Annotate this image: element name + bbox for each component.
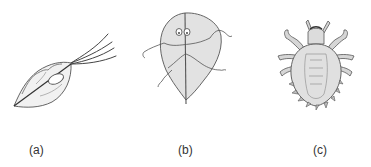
trichomonas-illustration — [0, 0, 124, 120]
figure-b-giardia — [124, 0, 248, 120]
caption-label-c: (c) — [313, 143, 327, 157]
giardia-illustration — [124, 0, 248, 120]
figure-a-trichomonas — [0, 0, 124, 120]
caption-label-a: (a) — [29, 143, 44, 157]
louse-illustration — [248, 0, 371, 120]
caption-label-b: (b) — [178, 143, 193, 157]
figure-c-louse — [248, 0, 371, 120]
